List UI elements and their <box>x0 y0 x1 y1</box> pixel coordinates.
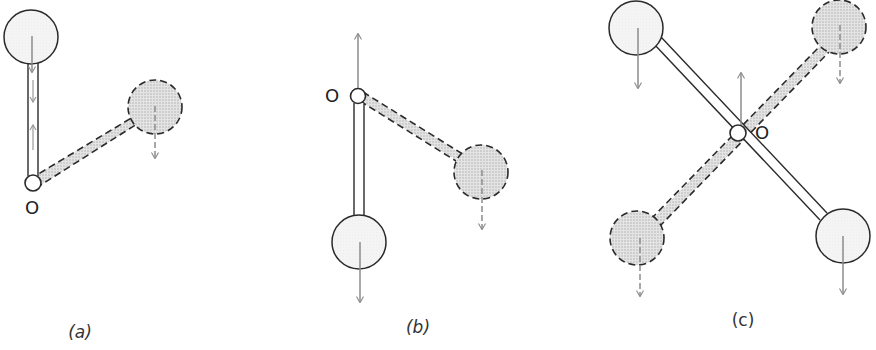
pivot-circle <box>730 125 746 141</box>
solid-rod <box>28 62 38 176</box>
dashed-rod <box>360 92 461 161</box>
pivot-circle <box>25 175 41 191</box>
panel-b: O (b) <box>325 34 508 337</box>
pivot-label: O <box>25 197 39 218</box>
panel-a: O (a) <box>4 10 182 342</box>
solid-ball <box>332 215 386 269</box>
solid-ball <box>609 1 663 55</box>
dashed-rod <box>30 117 137 188</box>
solid-rod <box>354 103 364 216</box>
solid-ball <box>4 10 58 64</box>
panel-c: O (c) <box>609 0 870 330</box>
caption-a: (a) <box>68 322 92 342</box>
dashed-ball <box>812 0 866 54</box>
caption-c: (c) <box>732 310 755 330</box>
dashed-ball <box>454 145 508 199</box>
dashed-ball <box>610 211 664 265</box>
pivot-label: O <box>325 85 339 106</box>
caption-b: (b) <box>406 317 430 337</box>
pivot-label: O <box>755 122 769 143</box>
pivot-circle <box>351 89 366 104</box>
pendulum-diagram: O (a) O (b) <box>0 0 876 350</box>
